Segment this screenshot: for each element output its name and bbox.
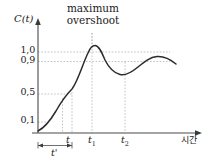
vertical-gridlines — [63, 33, 126, 133]
x-tick-label-t1: t1 — [88, 135, 96, 148]
x-axis — [32, 130, 202, 136]
step-response-chart: C(t) 1,0 0,9 0,5 0,1 t t1 t2 t' 시간 maxim… — [0, 0, 214, 167]
rise-time-label: t' — [51, 148, 57, 158]
x-axis-label: 시간 — [181, 136, 197, 145]
x-tick-label-t2-sub: 2 — [125, 140, 129, 148]
annotation-line-2: overshoot — [54, 15, 132, 27]
y-tick-label-0.5: 0,5 — [9, 87, 35, 97]
y-tick-label-0.9: 0,9 — [9, 55, 35, 65]
horizontal-gridlines — [38, 52, 170, 122]
y-tick-label-0.1: 0,1 — [9, 115, 35, 125]
step-response-curve — [38, 46, 176, 132]
annotation-line-1: maximum — [54, 3, 132, 15]
maximum-overshoot-annotation: maximum overshoot — [54, 3, 132, 27]
x-tick-label-t2: t2 — [121, 135, 129, 148]
x-tick-label-t: t — [66, 135, 70, 145]
y-axis-label: C(t) — [14, 14, 33, 25]
y-axis — [35, 18, 41, 133]
x-tick-label-t1-sub: 1 — [92, 140, 96, 148]
